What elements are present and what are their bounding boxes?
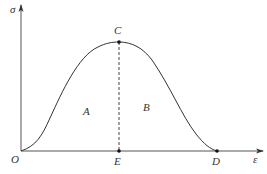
origin-label: O (11, 153, 19, 165)
y-axis-label: σ (10, 3, 16, 15)
stress-strain-diagram: σ ε O C E D A B (0, 0, 267, 174)
point-c (117, 40, 121, 44)
point-d-label: D (211, 155, 220, 167)
point-d (215, 149, 219, 153)
region-a-label: A (82, 105, 90, 117)
point-e (117, 149, 121, 153)
point-e-label: E (113, 155, 121, 167)
x-axis-label: ε (253, 153, 258, 165)
region-b-label: B (143, 101, 150, 113)
point-c-label: C (114, 24, 122, 36)
